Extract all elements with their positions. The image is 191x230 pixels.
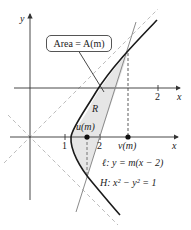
upper-tick-2-label: 2 [155,92,160,102]
line-l-label: ℓ: y = m(x − 2) [102,158,163,168]
lower-tick-1-label: 1 [62,141,67,151]
u-label: u(m) [76,122,95,132]
lower-tick-2-label: 2 [97,141,102,151]
y-axis-label: y [20,14,24,24]
hyperbola-label: H: x² − y² = 1 [100,178,156,188]
u-point [84,134,89,139]
lower-x-axis-label: x [172,141,176,151]
area-label-box: Area = A(m) [46,35,112,52]
v-point [125,134,130,139]
region-r-label: R [92,104,98,114]
upper-x-axis-label: x [177,92,181,102]
v-label: v(m) [118,141,136,151]
label-pointer [78,50,104,92]
